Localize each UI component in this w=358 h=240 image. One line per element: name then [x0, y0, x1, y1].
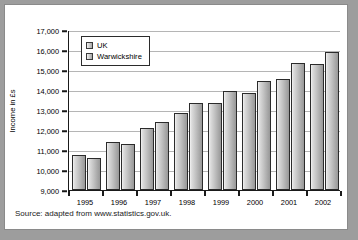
- source-note: Source: adapted from www.statistics.gov.…: [15, 209, 171, 218]
- x-axis-tick-label: 2002: [303, 198, 343, 207]
- x-axis: 19951996199719981999200020012002: [68, 31, 340, 71]
- y-axis-ticks: 9,00010,00011,00012,00013,00014,00015,00…: [5, 5, 68, 191]
- y-axis-tick-mark: [62, 90, 67, 92]
- y-axis-tick-label: 15,000: [5, 67, 59, 76]
- x-axis-tick-mark: [68, 191, 70, 196]
- figure-container: Income in £s 9,00010,00011,00012,00013,0…: [0, 0, 358, 240]
- chart-panel: Income in £s 9,00010,00011,00012,00013,0…: [4, 4, 348, 230]
- y-axis-tick-mark: [62, 130, 67, 132]
- bar: [140, 128, 154, 190]
- bar: [291, 63, 305, 190]
- y-axis-tick-mark: [62, 50, 67, 52]
- bar: [208, 103, 222, 190]
- x-axis-tick-mark: [136, 191, 138, 196]
- x-axis-tick-mark: [170, 191, 172, 196]
- bar: [325, 52, 339, 190]
- bar: [87, 158, 101, 190]
- x-axis-tick-mark: [306, 191, 308, 196]
- y-axis-tick-mark: [62, 110, 67, 112]
- y-axis-tick-mark: [62, 190, 67, 192]
- x-axis-tick-mark: [204, 191, 206, 196]
- bar: [242, 93, 256, 190]
- y-axis-tick-mark: [62, 30, 67, 32]
- bar: [310, 64, 324, 190]
- bar: [121, 144, 135, 190]
- y-axis-tick-mark: [62, 70, 67, 72]
- bar: [72, 155, 86, 190]
- bar: [106, 142, 120, 190]
- x-axis-tick-mark: [340, 191, 342, 196]
- bar: [276, 79, 290, 190]
- bar: [155, 122, 169, 190]
- y-axis-tick-mark: [62, 150, 67, 152]
- bar: [189, 103, 203, 190]
- y-axis-tick-label: 9,000: [5, 187, 59, 196]
- y-axis-tick-label: 14,000: [5, 87, 59, 96]
- bar: [257, 81, 271, 190]
- y-axis-tick-label: 13,000: [5, 107, 59, 116]
- y-axis-tick-label: 10,000: [5, 167, 59, 176]
- bar: [223, 91, 237, 190]
- y-axis-tick-mark: [62, 170, 67, 172]
- bar: [174, 113, 188, 190]
- y-axis-tick-label: 11,000: [5, 147, 59, 156]
- x-axis-tick-mark: [102, 191, 104, 196]
- x-axis-tick-mark: [238, 191, 240, 196]
- y-axis-tick-label: 17,000: [5, 27, 59, 36]
- x-axis-tick-mark: [272, 191, 274, 196]
- y-axis-tick-label: 16,000: [5, 47, 59, 56]
- y-axis-tick-label: 12,000: [5, 127, 59, 136]
